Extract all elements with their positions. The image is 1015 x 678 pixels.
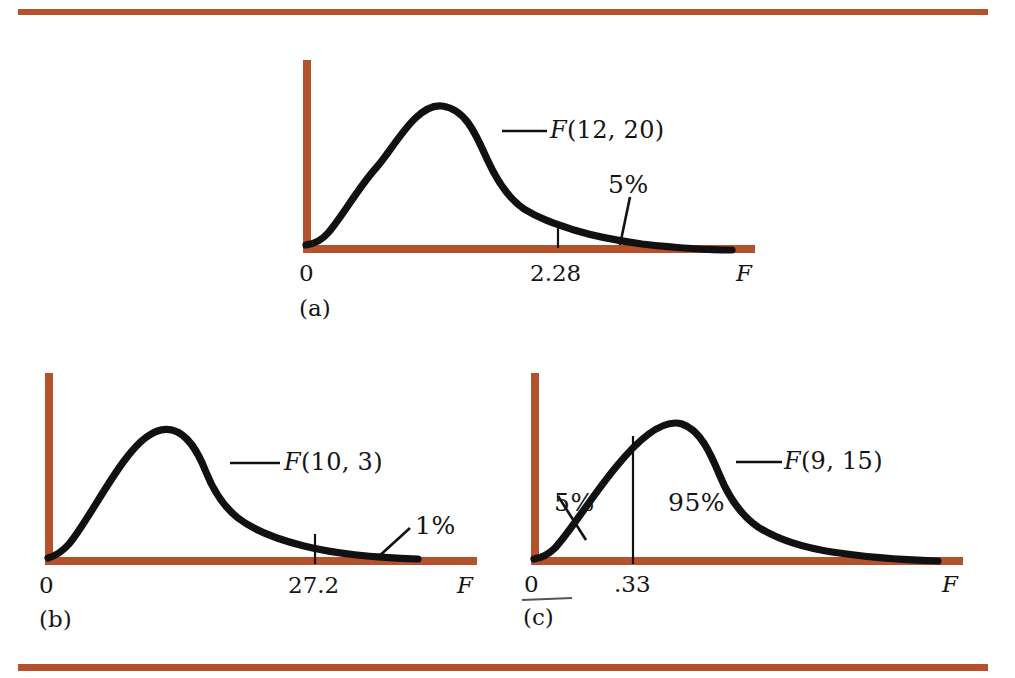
- panel-c-tail-percent-label: 5%: [554, 490, 595, 515]
- panel-c: F(9, 15) 5% 95% 0 .33 F (c): [518, 368, 988, 630]
- panel-b-curve-label-symbol: F: [284, 448, 301, 476]
- panel-a-caption: (a): [299, 297, 331, 320]
- panel-a-curve-label-params: (12, 20): [567, 116, 664, 144]
- panel-c-scan-artifact: [522, 598, 572, 600]
- panel-b-origin-label: 0: [39, 574, 54, 597]
- panel-c-axis-name-label: F: [942, 573, 958, 596]
- panel-c-y-axis: [531, 373, 539, 564]
- top-rule: [18, 9, 988, 15]
- panel-b-curve-label: F(10, 3): [284, 450, 383, 474]
- panel-b-y-axis: [45, 373, 53, 564]
- panel-b: F(10, 3) 1% 0 27.2 F (b): [32, 368, 502, 630]
- panel-c-caption: (c): [523, 606, 554, 629]
- panel-c-body-percent-label: 95%: [668, 490, 725, 515]
- panel-a-curve-label: F(12, 20): [550, 118, 664, 142]
- panel-b-plot: [32, 368, 502, 630]
- panel-a-origin-label: 0: [299, 262, 314, 285]
- panel-b-axis-name-label: F: [457, 574, 473, 597]
- panel-c-origin-label: 0: [524, 573, 539, 596]
- panel-c-curve-label-symbol: F: [784, 447, 801, 475]
- panel-c-curve-label-params: (9, 15): [801, 447, 883, 475]
- figure-root: F(12, 20) 5% 0 2.28 F (a) F(10, 3) 1%: [0, 0, 1015, 678]
- panel-b-caption: (b): [39, 608, 72, 631]
- panel-a: F(12, 20) 5% 0 2.28 F (a): [290, 55, 780, 315]
- panel-a-axis-name-label: F: [736, 262, 752, 285]
- panel-b-critical-value-label: 27.2: [288, 574, 339, 597]
- panel-b-tail-pointer: [377, 528, 410, 558]
- panel-a-curve-label-symbol: F: [550, 116, 567, 144]
- panel-a-critical-value-label: 2.28: [530, 262, 581, 285]
- panel-a-tail-pointer: [620, 197, 630, 245]
- panel-b-tail-percent-label: 1%: [415, 513, 456, 538]
- panel-c-curve-label: F(9, 15): [784, 449, 883, 473]
- panel-c-critical-value-label: .33: [614, 573, 651, 596]
- panel-b-curve-label-params: (10, 3): [301, 448, 383, 476]
- panel-a-density-curve: [306, 106, 732, 250]
- panel-a-tail-percent-label: 5%: [608, 172, 649, 197]
- panel-a-y-axis: [303, 60, 311, 252]
- bottom-rule: [18, 664, 988, 671]
